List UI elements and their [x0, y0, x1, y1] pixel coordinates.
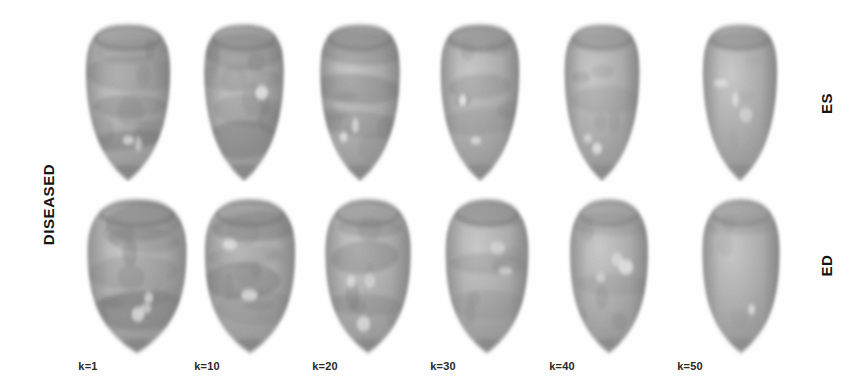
mesh-render-es-k1 [74, 20, 182, 182]
mesh-render-es-k10 [192, 20, 296, 182]
mesh-render-ed-k10 [196, 196, 304, 356]
mesh-render-es-k30 [428, 20, 532, 182]
mesh-render-ed-k40 [560, 196, 658, 356]
mesh-render-ed-k1 [80, 196, 194, 356]
column-caption-k20: k=20 [285, 360, 365, 372]
figure-panel: DISEASED ES ED k=1 k=10 k=20 k=30 k=40 k… [0, 0, 858, 391]
column-caption-k10: k=10 [167, 360, 247, 372]
mesh-render-ed-k20 [316, 196, 420, 356]
row-label-ed: ED [818, 246, 835, 286]
column-caption-k40: k=40 [522, 360, 602, 372]
mesh-render-ed-k50 [692, 196, 790, 356]
column-caption-k1: k=1 [48, 360, 128, 372]
row-label-es: ES [818, 84, 835, 124]
mesh-render-es-k40 [552, 20, 652, 182]
mesh-render-es-k50 [690, 20, 790, 182]
group-label-diseased: DISEASED [40, 155, 57, 255]
column-caption-k50: k=50 [650, 360, 730, 372]
mesh-render-ed-k30 [436, 196, 538, 356]
mesh-render-es-k20 [308, 20, 412, 182]
column-caption-k30: k=30 [403, 360, 483, 372]
